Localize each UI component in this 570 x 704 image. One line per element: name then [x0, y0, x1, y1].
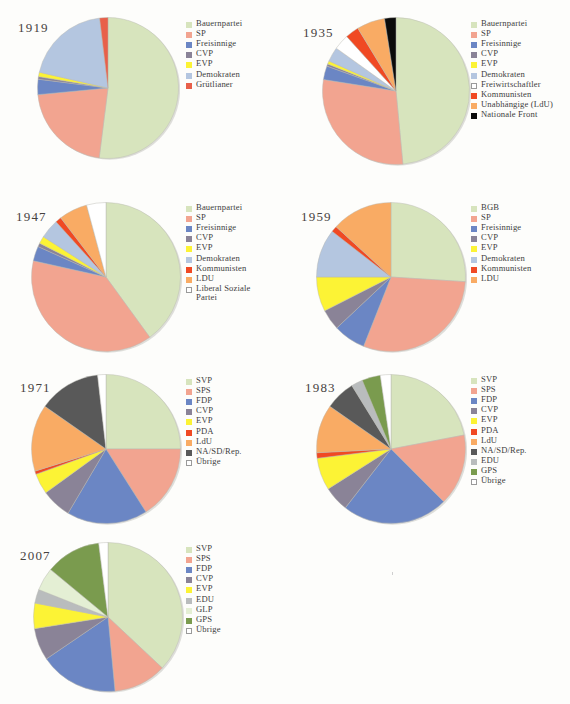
legend-item-label: Kommunisten — [196, 264, 246, 273]
legend-item[interactable]: SPS — [471, 385, 527, 394]
legend-item[interactable]: SP — [186, 29, 242, 38]
legend-item[interactable]: Liberal Soziale Partei — [186, 284, 251, 302]
legend-item[interactable]: Kommunisten — [471, 264, 531, 273]
legend-item[interactable]: LdU — [186, 437, 242, 446]
legend-item-label: FDP — [481, 395, 497, 404]
legend-item[interactable]: EVP — [186, 584, 221, 593]
legend-item[interactable]: SVP — [186, 544, 221, 553]
figure-sheet: 1919 BauernparteiSPFreisinnigeCVPEVPDemo… — [0, 0, 570, 704]
legend-item-label: Übrige — [481, 476, 506, 485]
legend-item[interactable]: CVP — [471, 233, 531, 242]
legend-color-swatch-icon — [186, 557, 192, 563]
legend-item[interactable]: Demokraten — [186, 70, 242, 79]
legend-color-swatch-icon — [471, 32, 477, 38]
legend-item[interactable]: SPS — [186, 386, 242, 395]
legend-item-label: SP — [196, 213, 206, 222]
legend-item[interactable]: Freiwirtschaftler — [471, 80, 553, 89]
legend-item[interactable]: BGB — [471, 203, 531, 212]
legend-item-label: EVP — [196, 584, 213, 593]
legend-item[interactable]: GPS — [186, 615, 221, 624]
legend-item-label: SPS — [481, 385, 496, 394]
legend-item[interactable]: Nationale Front — [471, 110, 553, 119]
legend-item-label: Kommunisten — [481, 90, 531, 99]
legend-item[interactable]: PDA — [471, 426, 527, 435]
legend-item[interactable]: SPS — [186, 554, 221, 563]
legend-item[interactable]: EVP — [471, 59, 553, 68]
legend-1959: BGBSPFreisinnigeCVPEVPDemokratenKommunis… — [471, 203, 531, 284]
legend-item[interactable]: GPS — [471, 466, 527, 475]
legend-item[interactable]: LdU — [471, 436, 527, 445]
legend-item-label: Unabhängige (LdU) — [481, 100, 553, 109]
legend-item-label: CVP — [481, 405, 498, 414]
legend-item[interactable]: SP — [471, 213, 531, 222]
legend-item[interactable]: NA/SD/Rep. — [471, 446, 527, 455]
legend-item-label: LDU — [196, 274, 214, 283]
legend-item[interactable]: LDU — [471, 274, 531, 283]
legend-item[interactable]: EVP — [186, 243, 251, 252]
legend-item[interactable]: EVP — [471, 415, 527, 424]
legend-item[interactable]: SP — [186, 213, 251, 222]
legend-color-swatch-icon — [471, 449, 477, 455]
legend-color-swatch-icon — [186, 547, 192, 553]
legend-item-label: Freisinnige — [481, 39, 521, 48]
legend-item[interactable]: Demokraten — [471, 254, 531, 263]
legend-item-label: Liberal Soziale Partei — [196, 284, 251, 302]
legend-item[interactable]: CVP — [186, 233, 251, 242]
legend-item[interactable]: NA/SD/Rep. — [186, 447, 242, 456]
legend-item[interactable]: Bauernpartei — [186, 203, 251, 212]
legend-item[interactable]: LDU — [186, 274, 251, 283]
legend-item[interactable]: Freisinnige — [186, 223, 251, 232]
legend-item[interactable]: FDP — [186, 564, 221, 573]
legend-item-label: CVP — [481, 233, 498, 242]
legend-item-label: Bauernpartei — [196, 203, 242, 212]
legend-item[interactable]: Übrige — [471, 476, 527, 485]
legend-color-swatch-icon — [471, 459, 477, 465]
legend-item[interactable]: Kommunisten — [186, 264, 251, 273]
legend-color-swatch-icon — [471, 398, 477, 404]
legend-color-swatch-icon — [186, 379, 192, 385]
legend-item[interactable]: SVP — [186, 376, 242, 385]
legend-item[interactable]: EDU — [186, 595, 221, 604]
legend-item[interactable]: SP — [471, 29, 553, 38]
legend-color-swatch-icon — [186, 287, 192, 293]
legend-item[interactable]: CVP — [186, 406, 242, 415]
legend-item[interactable]: FDP — [186, 396, 242, 405]
legend-item[interactable]: Kommunisten — [471, 90, 553, 99]
legend-color-swatch-icon — [471, 42, 477, 48]
legend-item[interactable]: EVP — [186, 416, 242, 425]
legend-item[interactable]: Demokraten — [186, 254, 251, 263]
legend-item[interactable]: CVP — [186, 574, 221, 583]
legend-item[interactable]: Demokraten — [471, 70, 553, 79]
legend-item[interactable]: CVP — [186, 49, 242, 58]
legend-color-swatch-icon — [471, 439, 477, 445]
legend-color-swatch-icon — [471, 62, 477, 68]
legend-item[interactable]: Übrige — [186, 625, 221, 634]
legend-item-label: FDP — [196, 564, 212, 573]
legend-item[interactable]: SVP — [471, 375, 527, 384]
legend-item-label: FDP — [196, 396, 212, 405]
legend-item[interactable]: PDA — [186, 427, 242, 436]
legend-item[interactable]: Freisinnige — [471, 223, 531, 232]
legend-item[interactable]: CVP — [471, 405, 527, 414]
legend-item[interactable]: Bauernpartei — [186, 19, 242, 28]
legend-item[interactable]: EVP — [186, 59, 242, 68]
legend-item-label: NA/SD/Rep. — [481, 446, 527, 455]
legend-item[interactable]: EDU — [471, 456, 527, 465]
legend-item[interactable]: Freisinnige — [186, 39, 242, 48]
legend-color-swatch-icon — [471, 73, 477, 79]
pie-graphic-1983 — [315, 373, 467, 525]
legend-item[interactable]: Übrige — [186, 457, 242, 466]
legend-color-swatch-icon — [471, 267, 477, 273]
legend-item[interactable]: Grütlianer — [186, 80, 242, 89]
legend-item[interactable]: FDP — [471, 395, 527, 404]
legend-item[interactable]: Bauernpartei — [471, 19, 553, 28]
legend-color-swatch-icon — [186, 62, 192, 68]
legend-color-swatch-icon — [186, 206, 192, 212]
legend-item[interactable]: Unabhängige (LdU) — [471, 100, 553, 109]
legend-item[interactable]: EVP — [471, 243, 531, 252]
legend-item-label: SP — [196, 29, 206, 38]
legend-item[interactable]: GLP — [186, 605, 221, 614]
legend-item[interactable]: CVP — [471, 49, 553, 58]
legend-item[interactable]: Freisinnige — [471, 39, 553, 48]
legend-color-swatch-icon — [186, 618, 192, 624]
